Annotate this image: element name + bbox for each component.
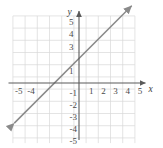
coordinate-plane-svg: y x -5 -4 1 2 3 4 5 5 4 3 1 -1 -2 -3 -4 … xyxy=(0,0,163,148)
x-tick-label: -5 xyxy=(15,86,23,96)
y-tick-label: 3 xyxy=(69,42,74,52)
x-tick-label: 3 xyxy=(113,86,118,96)
x-tick-label: 5 xyxy=(138,86,143,96)
y-tick-label: 1 xyxy=(69,66,74,76)
y-tick-label: -2 xyxy=(70,100,78,110)
x-axis-letter: x xyxy=(147,84,153,94)
x-tick-label: 2 xyxy=(101,86,106,96)
y-tick-label: -4 xyxy=(70,124,78,134)
y-tick-label: -1 xyxy=(70,88,78,98)
coordinate-graph-figure: y x -5 -4 1 2 3 4 5 5 4 3 1 -1 -2 -3 -4 … xyxy=(0,0,163,148)
y-tick-label: 5 xyxy=(69,17,74,27)
x-tick-label: -4 xyxy=(27,86,35,96)
y-tick-label: -3 xyxy=(70,112,78,122)
x-tick-label: 4 xyxy=(126,86,131,96)
y-tick-label: -5 xyxy=(70,136,78,146)
y-tick-label: 4 xyxy=(69,29,74,39)
y-axis-letter: y xyxy=(66,7,72,17)
x-tick-label: 1 xyxy=(89,86,94,96)
